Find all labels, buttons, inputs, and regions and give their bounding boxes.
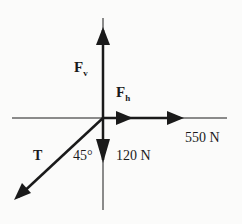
diagram-svg [0,0,242,224]
up-arrowhead-icon [96,27,110,45]
right-arrowhead-icon [116,111,133,125]
fv-label: Fv [74,60,88,75]
tension-label: T [33,149,42,163]
force-550n-label: 550 N [185,131,220,145]
down-arrowhead-icon [96,139,110,163]
force-120n-label: 120 N [116,149,151,163]
fh-label: Fh [116,85,130,100]
fv-label-main: F [74,59,83,75]
fv-label-sub: v [83,68,88,78]
force-diagram: Fv Fh 550 N 120 N T 45° [0,0,242,224]
fh-label-main: F [116,84,125,100]
fh-label-sub: h [125,93,130,103]
down-left-arrowhead-icon [14,183,31,200]
right-arrowhead-icon [167,111,184,125]
angle-label: 45° [73,149,93,163]
